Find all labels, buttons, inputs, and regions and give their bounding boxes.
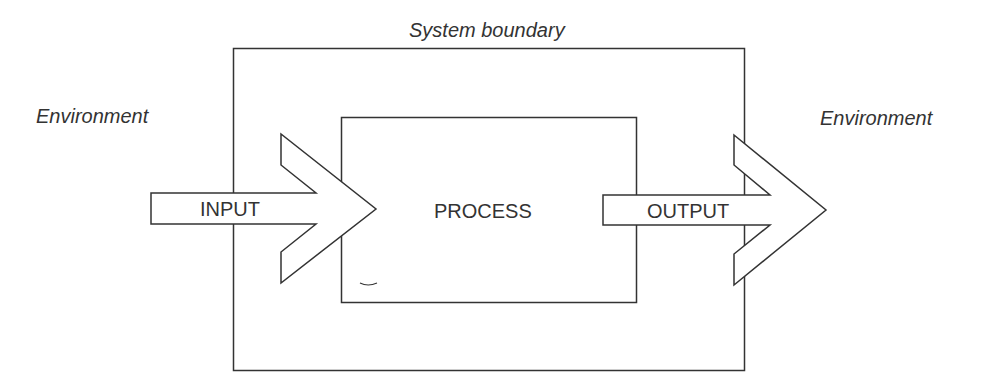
input-label: INPUT [200,198,260,221]
output-label: OUTPUT [647,200,729,223]
environment-left-label: Environment [36,105,148,128]
environment-right-label: Environment [820,107,932,130]
process-label: PROCESS [434,200,532,223]
system-boundary-label: System boundary [409,19,565,42]
process-box-mark [360,283,377,285]
diagram-canvas [0,0,985,387]
